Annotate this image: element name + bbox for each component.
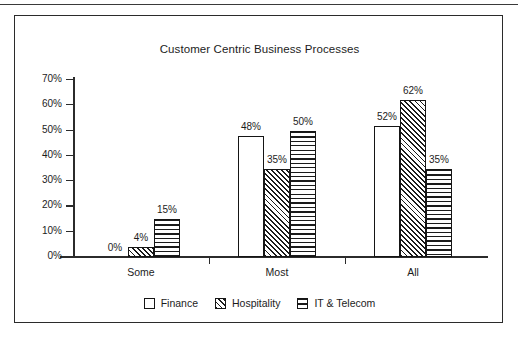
y-axis-tick	[66, 79, 73, 80]
y-axis-tick	[66, 205, 73, 206]
y-axis-tick	[66, 180, 73, 181]
legend-label: Finance	[161, 297, 198, 309]
y-axis-tick	[66, 130, 73, 131]
legend-swatch-icon	[215, 298, 226, 309]
x-axis-tick	[345, 257, 346, 264]
x-axis-tick	[209, 257, 210, 264]
bar	[374, 126, 400, 257]
bar-value-label: 48%	[231, 121, 271, 132]
x-axis-label: Some	[96, 266, 186, 278]
bar-value-label: 35%	[419, 154, 459, 165]
y-axis-tick	[66, 155, 73, 156]
y-axis-tick	[66, 256, 73, 257]
legend-item[interactable]: Hospitality	[215, 297, 280, 309]
y-axis-label: 40%	[15, 149, 62, 160]
bar	[400, 100, 426, 257]
y-axis-label: 50%	[15, 124, 62, 135]
y-axis-label: 60%	[15, 98, 62, 109]
y-axis-label: 0%	[15, 250, 62, 261]
bar-value-label: 50%	[283, 116, 323, 127]
y-axis-tick	[66, 231, 73, 232]
chart-legend: FinanceHospitalityIT & Telecom	[15, 297, 504, 309]
y-axis-label: 30%	[15, 174, 62, 185]
bar	[154, 219, 180, 257]
bar	[426, 169, 452, 258]
y-axis-label: 70%	[15, 73, 62, 84]
y-axis-label: 10%	[15, 225, 62, 236]
bar-value-label: 62%	[393, 85, 433, 96]
legend-swatch-icon	[144, 298, 155, 309]
x-axis-label: All	[368, 266, 458, 278]
y-axis-label: 20%	[15, 199, 62, 210]
plot-area: 0%4%15%48%35%50%52%62%35%	[73, 79, 481, 257]
page-top-rule	[0, 4, 518, 5]
bar	[128, 247, 154, 257]
legend-item[interactable]: Finance	[144, 297, 198, 309]
bar	[264, 169, 290, 258]
chart-title: Customer Centric Business Processes	[15, 43, 504, 55]
legend-item[interactable]: IT & Telecom	[297, 297, 375, 309]
chart-frame: Customer Centric Business Processes 0%10…	[14, 15, 503, 323]
legend-swatch-icon	[297, 298, 308, 309]
bar-value-label: 15%	[147, 204, 187, 215]
x-axis-label: Most	[232, 266, 322, 278]
legend-label: Hospitality	[232, 297, 280, 309]
y-axis-tick	[66, 104, 73, 105]
bar	[290, 131, 316, 257]
legend-label: IT & Telecom	[314, 297, 375, 309]
